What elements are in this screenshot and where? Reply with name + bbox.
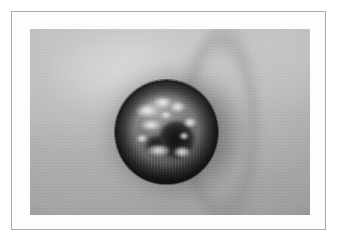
photo-grain-texture: [30, 29, 310, 215]
clinical-photograph: [30, 29, 310, 215]
figure-page: [0, 0, 338, 243]
figure-mat: [12, 12, 325, 229]
figure-frame: [11, 11, 326, 230]
